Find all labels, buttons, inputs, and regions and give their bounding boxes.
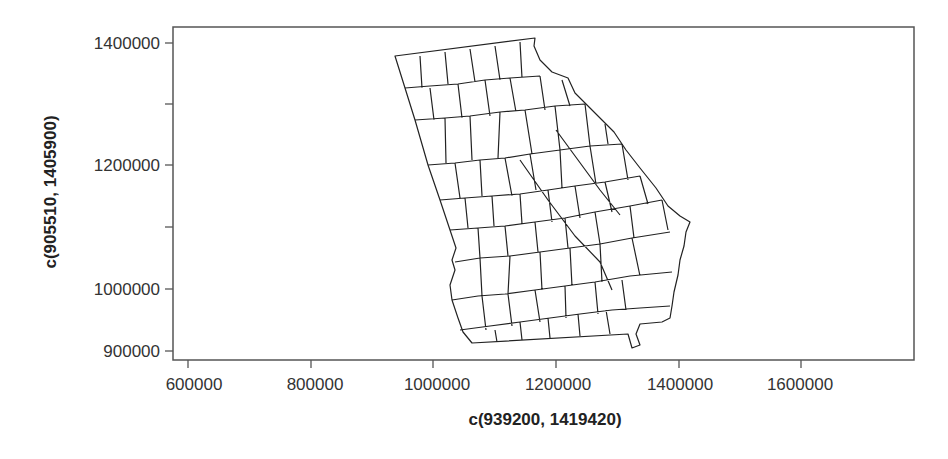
map-plot: 1400000 1200000 1000000 900000 600000 80… bbox=[0, 0, 948, 459]
y-tick-label: 1200000 bbox=[94, 156, 160, 175]
y-tick-label: 900000 bbox=[103, 342, 160, 361]
y-axis-title: c(905510, 1405900) bbox=[41, 115, 60, 268]
x-tick-label: 800000 bbox=[287, 375, 344, 394]
y-axis bbox=[165, 43, 173, 351]
x-tick-label: 600000 bbox=[166, 375, 223, 394]
x-tick-label: 1600000 bbox=[767, 375, 833, 394]
y-tick-label: 1000000 bbox=[94, 280, 160, 299]
y-tick-label: 1400000 bbox=[94, 34, 160, 53]
x-tick-label: 1200000 bbox=[525, 375, 591, 394]
x-axis bbox=[188, 360, 801, 368]
x-axis-title: c(939200, 1419420) bbox=[468, 410, 621, 429]
x-tick-label: 1400000 bbox=[647, 375, 713, 394]
x-tick-label: 1000000 bbox=[404, 375, 470, 394]
georgia-map bbox=[395, 38, 690, 348]
